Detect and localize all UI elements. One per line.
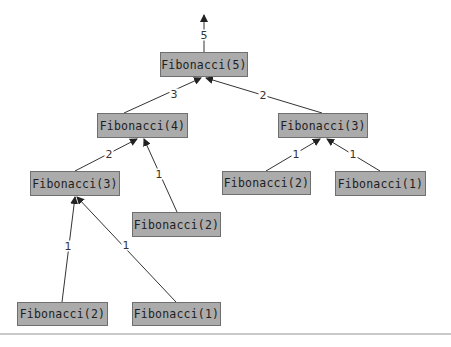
edge-label: 1 bbox=[292, 149, 301, 160]
node-label: Fibonacci(2) bbox=[224, 176, 309, 190]
node-f3l: Fibonacci(3) bbox=[30, 171, 120, 196]
node-f2r: Fibonacci(2) bbox=[222, 171, 311, 195]
node-label: Fibonacci(2) bbox=[134, 218, 219, 232]
node-f5: Fibonacci(5) bbox=[160, 52, 248, 77]
edge-label: 1 bbox=[349, 149, 358, 160]
edge-label: 1 bbox=[122, 240, 131, 251]
node-f2m: Fibonacci(2) bbox=[132, 212, 221, 237]
node-f4: Fibonacci(4) bbox=[97, 113, 188, 138]
fibonacci-call-tree: 322111115 Fibonacci(5)Fibonacci(4)Fibona… bbox=[0, 0, 451, 347]
edge-label: 2 bbox=[105, 149, 114, 160]
edge-f4-to-f5 bbox=[124, 78, 201, 113]
node-label: Fibonacci(3) bbox=[280, 119, 365, 133]
edge-label: 1 bbox=[64, 241, 73, 252]
node-label: Fibonacci(2) bbox=[20, 307, 105, 321]
edge-label: 3 bbox=[170, 89, 179, 100]
node-label: Fibonacci(1) bbox=[338, 177, 423, 191]
node-label: Fibonacci(3) bbox=[32, 177, 117, 191]
node-f3r: Fibonacci(3) bbox=[278, 113, 368, 138]
edge-label: 1 bbox=[155, 169, 164, 180]
result-label: 5 bbox=[200, 30, 209, 41]
node-label: Fibonacci(5) bbox=[161, 58, 246, 72]
edge-label: 2 bbox=[259, 90, 268, 101]
node-f1r: Fibonacci(1) bbox=[335, 171, 426, 196]
node-f2b: Fibonacci(2) bbox=[17, 302, 108, 326]
bottom-divider bbox=[0, 333, 451, 335]
node-label: Fibonacci(4) bbox=[100, 119, 185, 133]
node-f1b: Fibonacci(1) bbox=[132, 302, 221, 326]
node-label: Fibonacci(1) bbox=[134, 307, 219, 321]
